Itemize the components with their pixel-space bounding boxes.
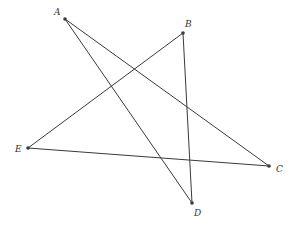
label-d: D bbox=[193, 208, 201, 218]
point-b bbox=[181, 31, 185, 35]
segment-ad bbox=[65, 19, 192, 203]
segment-be bbox=[28, 33, 183, 148]
pentagram-diagram: ABCDE bbox=[0, 0, 300, 228]
point-c bbox=[267, 164, 271, 168]
segment-ac bbox=[65, 19, 269, 166]
points bbox=[26, 17, 271, 205]
segment-bd bbox=[183, 33, 192, 203]
label-c: C bbox=[276, 164, 283, 174]
point-a bbox=[63, 17, 67, 21]
labels: ABCDE bbox=[14, 7, 283, 218]
point-e bbox=[26, 146, 30, 150]
label-a: A bbox=[53, 7, 61, 17]
label-e: E bbox=[14, 144, 22, 154]
point-d bbox=[190, 201, 194, 205]
segments bbox=[28, 19, 269, 203]
label-b: B bbox=[184, 19, 192, 29]
segment-ec bbox=[28, 148, 269, 166]
